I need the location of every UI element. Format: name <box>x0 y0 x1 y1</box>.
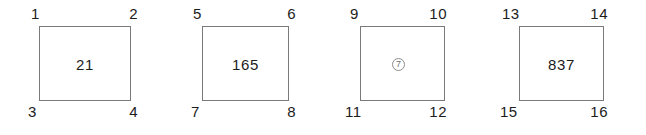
cell-value-1: 21 <box>39 57 131 72</box>
cell-value-2: 165 <box>202 57 289 72</box>
vertex-label-bottom-left-1: 3 <box>28 104 37 119</box>
vertex-label-top-left-1: 1 <box>31 6 40 21</box>
circled-symbol-value-3: 7 <box>396 60 401 69</box>
vertex-label-bottom-left-2: 7 <box>191 104 200 119</box>
square-cell-1: 1 2 3 4 21 <box>0 0 160 135</box>
vertex-label-bottom-right-2: 8 <box>280 104 296 119</box>
vertex-label-top-left-4: 13 <box>502 6 520 21</box>
vertex-label-bottom-right-1: 4 <box>122 104 138 119</box>
vertex-label-top-right-2: 6 <box>280 6 296 21</box>
square-cell-4: 13 14 15 16 837 <box>485 0 646 135</box>
vertex-label-top-left-2: 5 <box>193 6 202 21</box>
vertex-label-top-right-1: 2 <box>122 6 138 21</box>
figure-canvas: 1 2 3 4 21 5 6 7 8 165 9 10 11 12 7 13 1… <box>0 0 646 135</box>
vertex-label-bottom-left-3: 11 <box>345 104 362 119</box>
square-cell-3: 9 10 11 12 7 <box>320 0 485 135</box>
vertex-label-top-left-3: 9 <box>350 6 359 21</box>
vertex-label-bottom-left-4: 15 <box>500 104 518 119</box>
vertex-label-top-right-3: 10 <box>427 6 447 21</box>
square-cell-2: 5 6 7 8 165 <box>160 0 320 135</box>
vertex-label-top-right-4: 14 <box>588 6 608 21</box>
vertex-label-bottom-right-4: 16 <box>588 104 608 119</box>
circled-symbol-3: 7 <box>392 58 405 71</box>
vertex-label-bottom-right-3: 12 <box>427 104 447 119</box>
cell-value-4: 837 <box>519 57 604 72</box>
